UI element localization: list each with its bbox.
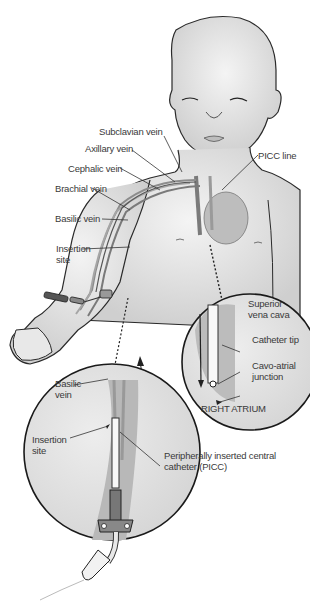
catheter-tail [40,532,116,600]
label-picc-catheter: Peripherally inserted central catheter (… [164,450,284,472]
label-cavo-atrial-junction: Cavo-atrial junction [252,360,307,382]
label-picc-line: PICC line [258,150,296,161]
label-superior-vena-cava: Superior vena cava [248,298,303,320]
picc-catheter [112,418,119,488]
label-basilic-vein: Basilic vein [55,213,100,224]
picc-diagram: Subclavian vein Axillary vein Cephalic v… [0,0,310,605]
label-cephalic-vein: Cephalic vein [68,163,122,174]
catheter-tip-icon [210,381,216,387]
label-right-atrium: RIGHT ATRIUM [201,403,266,414]
label-axillary-vein: Axillary vein [85,143,133,154]
child-head [170,17,281,159]
label-catheter-tip: Catheter tip [252,334,299,345]
label-inset-insertion-site: Insertion site [32,434,72,456]
clamp-icon [82,550,110,580]
label-inset-basilic-vein: Basilic vein [55,378,85,400]
label-brachial-vein: Brachial vein [55,183,107,194]
label-insertion-site: Insertion site [56,243,96,265]
label-subclavian-vein: Subclavian vein [99,126,163,137]
catheter-in-svc [208,305,218,383]
